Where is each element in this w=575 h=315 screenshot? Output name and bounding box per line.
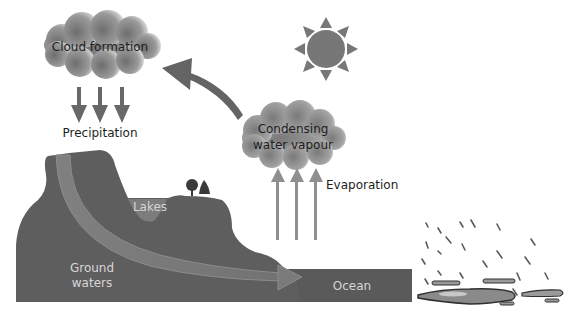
cloud-formation-label: Cloud formation (52, 40, 148, 54)
sun-icon (294, 17, 358, 81)
condensing-cloud: Condensing water vapour (242, 100, 346, 170)
ground-waters-label-line2: waters (72, 276, 112, 290)
up-arrow-icon (271, 168, 285, 240)
down-arrow-icon (92, 87, 108, 123)
evaporation-label: Evaporation (326, 178, 398, 192)
condensing-label-line2: water vapour (253, 138, 333, 152)
ocean-label: Ocean (333, 279, 371, 293)
up-arrow-icon (290, 168, 304, 240)
ground-waters-label-line1: Ground (70, 261, 114, 275)
up-arrow-icon (309, 168, 323, 240)
lakes-label: Lakes (133, 200, 167, 214)
puddles (418, 279, 563, 305)
down-arrow-icon (71, 87, 87, 123)
evaporation-arrows (271, 168, 323, 240)
cloud-formation: Cloud formation (44, 10, 161, 79)
down-arrow-icon (114, 87, 130, 123)
curved-arrow-icon (162, 58, 243, 120)
condensing-label-line1: Condensing (258, 122, 329, 136)
precipitation-label: Precipitation (62, 126, 137, 140)
precipitation-arrows (71, 87, 130, 123)
tree-icon (186, 179, 210, 196)
water-cycle-diagram: Cloud formation Precipitation (0, 0, 575, 315)
